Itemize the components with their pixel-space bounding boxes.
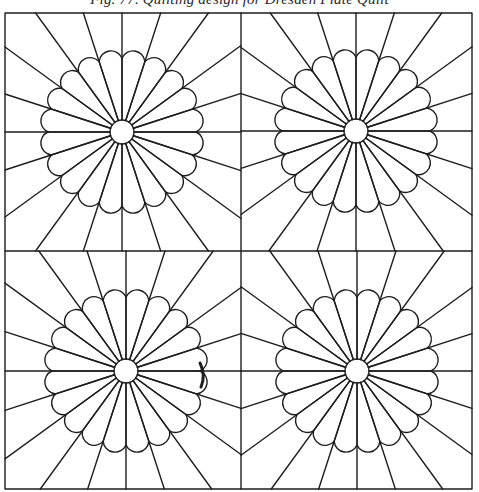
petal-seam	[129, 72, 165, 122]
petal-seam	[368, 348, 427, 367]
petal-seam	[287, 375, 346, 394]
petal-seam	[367, 135, 426, 154]
petal-seam	[133, 109, 192, 128]
petal-seam	[287, 348, 346, 367]
radial-lines	[241, 251, 472, 489]
petal-seam	[136, 328, 186, 364]
petal-seams	[48, 58, 196, 206]
petal-seam	[62, 139, 112, 175]
petal-seam	[79, 72, 115, 122]
petal-seam	[361, 382, 380, 441]
petal-seam	[83, 311, 119, 361]
ink-artifact	[200, 363, 203, 387]
petal-seam	[133, 136, 192, 155]
petal-seam	[79, 142, 115, 192]
petal-seam	[56, 348, 115, 367]
petal-seam	[314, 381, 350, 431]
petal-seam	[99, 143, 118, 202]
petal-seam	[130, 382, 149, 441]
petal-seam	[366, 88, 416, 124]
petal-seam	[297, 328, 347, 364]
petal-seam	[133, 311, 169, 361]
petal-seam	[366, 138, 416, 174]
petal-seam	[132, 89, 182, 125]
quilt-block-top-right	[241, 13, 472, 251]
petal-seam	[56, 375, 115, 394]
center-circle	[110, 120, 134, 144]
petal-seam	[133, 381, 169, 431]
petal-seam	[367, 378, 417, 414]
center-circle	[114, 359, 138, 383]
petal-seam	[83, 381, 119, 431]
petal-seam	[52, 109, 111, 128]
petal-seam	[137, 348, 196, 367]
petal-seam	[367, 328, 417, 364]
petal-seam	[296, 88, 346, 124]
petal-seam	[132, 139, 182, 175]
petal-seam	[313, 71, 349, 121]
block-dividers	[5, 13, 472, 489]
petal-seam	[363, 71, 399, 121]
radial-lines	[241, 13, 472, 251]
petal-seam	[136, 378, 186, 414]
petal-seam	[126, 62, 145, 121]
petal-seam	[368, 375, 427, 394]
petal-seam	[364, 381, 400, 431]
radial-lines	[5, 251, 241, 489]
quilt-block-top-left	[5, 13, 241, 251]
petal-seam	[360, 61, 379, 120]
radial-lines	[5, 13, 241, 251]
petal-seam	[361, 301, 380, 360]
petal-seams	[283, 297, 431, 445]
petal-seam	[137, 375, 196, 394]
petal-seams	[282, 57, 430, 205]
petal-seam	[334, 382, 353, 441]
petal-seam	[103, 382, 122, 441]
petal-seam	[360, 142, 379, 201]
quilting-design-figure	[0, 0, 479, 492]
petal-seam	[364, 311, 400, 361]
petal-seam	[333, 61, 352, 120]
center-circle	[345, 359, 369, 383]
petal-seam	[333, 142, 352, 201]
center-circle	[344, 119, 368, 143]
petal-seam	[297, 378, 347, 414]
petal-seam	[66, 378, 116, 414]
petal-seam	[286, 135, 345, 154]
petal-seam	[62, 89, 112, 125]
petal-seam	[367, 108, 426, 127]
petal-seam	[129, 142, 165, 192]
petal-seam	[286, 108, 345, 127]
quilt-block-bottom-left	[5, 251, 241, 489]
petal-seam	[103, 301, 122, 360]
petal-seams	[52, 297, 200, 445]
petal-seam	[334, 301, 353, 360]
petal-seam	[363, 141, 399, 191]
petal-seam	[296, 138, 346, 174]
petal-seam	[52, 136, 111, 155]
quilt-block-bottom-right	[241, 251, 472, 489]
petal-seam	[130, 301, 149, 360]
petal-seam	[99, 62, 118, 121]
petal-seam	[313, 141, 349, 191]
petal-seam	[126, 143, 145, 202]
petal-seam	[314, 311, 350, 361]
petal-seam	[66, 328, 116, 364]
